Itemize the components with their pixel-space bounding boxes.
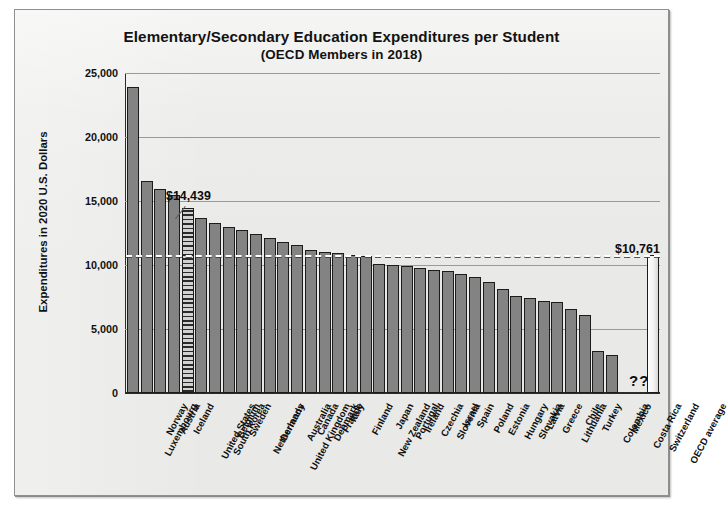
chart-subtitle: (OECD Members in 2018) <box>15 47 668 63</box>
bar-new-zealand <box>360 256 372 393</box>
bar-slovenia <box>428 270 440 393</box>
annotation-oecd-average-value: $10,761 <box>615 242 660 256</box>
bar-japan <box>373 264 385 393</box>
bar-south-korea <box>195 218 207 393</box>
bar-colombia <box>592 351 604 393</box>
y-axis-title: Expenditures in 2020 U.S. Dollars <box>37 72 49 372</box>
bar-slovakia <box>510 296 522 393</box>
bar-united-kingdom <box>264 238 276 393</box>
bar-lithuania <box>551 302 563 393</box>
bar-spain <box>455 274 467 393</box>
x-axis-labels: LuxembourgNorwayAustriaIcelandUnited Sta… <box>125 396 660 496</box>
y-tick-label: 20,000 <box>85 131 118 143</box>
bar-greece <box>538 301 550 393</box>
bar-poland <box>469 277 481 393</box>
bar-france <box>319 252 331 393</box>
bar-australia <box>277 242 289 393</box>
page-title: Elementary/Secondary Education Expenditu… <box>15 28 668 46</box>
bar-canada <box>291 245 303 393</box>
y-tick-label: 25,000 <box>85 67 118 79</box>
oecd-average-line <box>126 255 660 257</box>
bar-latvia <box>524 298 536 393</box>
bar-ireland <box>401 266 413 393</box>
x-tick-label: Finland <box>369 401 395 436</box>
x-tick-label: Germany <box>277 401 306 443</box>
annotation-missing-data: ?? <box>629 372 649 389</box>
bar-iceland <box>168 195 180 393</box>
bar-turkey <box>579 315 591 393</box>
plot-area: 05,00010,00015,00020,00025,000 <box>125 73 660 393</box>
bar-czechia <box>414 268 426 393</box>
source-note <box>8 503 408 511</box>
bar-chile <box>565 309 577 393</box>
chart-panel: Elementary/Secondary Education Expenditu… <box>14 9 669 496</box>
bar-denmark <box>305 250 317 393</box>
bar-belgium <box>209 223 221 393</box>
bar-israel <box>442 271 454 393</box>
chart-title-block: Elementary/Secondary Education Expenditu… <box>15 28 668 63</box>
bar-estonia <box>483 282 495 393</box>
annotation-us-value: $14,439 <box>166 189 211 203</box>
bar-series <box>126 73 660 393</box>
bar-austria <box>154 189 166 393</box>
bar-united-states <box>182 208 194 393</box>
bar-hungary <box>497 289 509 393</box>
bar-italy <box>332 253 344 393</box>
y-tick-label: 5,000 <box>91 323 118 335</box>
y-tick-label: 15,000 <box>85 195 118 207</box>
bar-portugal <box>387 265 399 393</box>
bar-sweden <box>223 227 235 393</box>
y-tick-label: 10,000 <box>85 259 118 271</box>
y-tick-label: 0 <box>112 387 118 399</box>
bar-finland <box>346 255 358 393</box>
bar-luxembourg <box>127 87 139 393</box>
bar-norway <box>141 181 153 393</box>
bar-mexico <box>606 355 618 393</box>
